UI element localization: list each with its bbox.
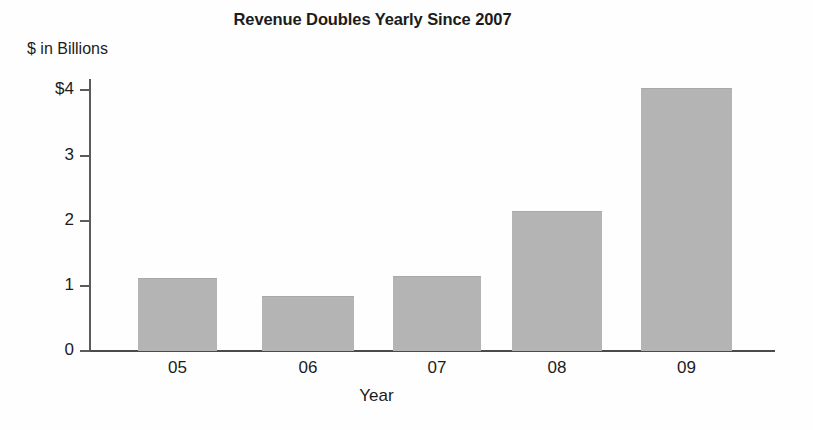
x-axis-title: Year	[0, 386, 813, 406]
bar-05[interactable]	[138, 278, 217, 351]
bar-09[interactable]	[641, 88, 732, 351]
plot-area: $4 3 2 1 0 05 06 07 08 09 Year	[0, 0, 813, 430]
y-tick-1	[80, 285, 90, 287]
bar-06[interactable]	[262, 296, 354, 351]
y-tick-3	[80, 155, 90, 157]
y-tick-4	[80, 89, 90, 91]
x-tick-label-09: 09	[641, 358, 732, 378]
bar-07[interactable]	[393, 276, 481, 351]
y-tick-label-4: $4	[0, 79, 74, 99]
y-tick-0	[80, 350, 90, 352]
x-axis-title-text: Year	[359, 386, 393, 406]
x-tick-label-05: 05	[138, 358, 217, 378]
x-tick-label-07: 07	[393, 358, 481, 378]
y-tick-label-3: 3	[0, 145, 74, 165]
y-tick-label-0: 0	[0, 340, 74, 360]
y-axis-line	[89, 79, 91, 352]
bar-chart: Revenue Doubles Yearly Since 2007 $ in B…	[0, 0, 813, 430]
bar-08[interactable]	[512, 211, 602, 351]
y-tick-2	[80, 220, 90, 222]
x-tick-label-08: 08	[512, 358, 602, 378]
y-tick-label-1: 1	[0, 275, 74, 295]
x-tick-label-06: 06	[262, 358, 354, 378]
y-tick-label-2: 2	[0, 210, 74, 230]
